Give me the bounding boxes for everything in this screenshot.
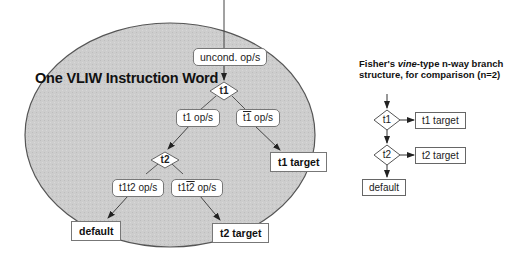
default-node: default [71, 221, 121, 241]
t1t2-ops-node: t1t2 op/s [112, 179, 164, 197]
comparison-title-line2: structure, for comparison (n=2) [359, 69, 503, 80]
t2-target-node: t2 target [212, 223, 269, 243]
comparison-title-line1: Fisher's vine-type n-way branch [359, 58, 503, 69]
comparison-title: Fisher's vine-type n-way branch structur… [359, 58, 503, 80]
t1-ops-node: t1 op/s [176, 109, 220, 127]
vine-t1-target-node: t1 target [415, 112, 466, 129]
title-prefix: Fisher's [359, 58, 398, 69]
title-suffix: -type n-way branch [417, 58, 504, 69]
vine-t2-target-node: t2 target [415, 147, 466, 164]
t1-not-t2-ops-node: t1t2 op/s [171, 179, 223, 197]
not-t1-ops-node: t1 op/s [236, 109, 280, 127]
vliw-region-label: One VLIW Instruction Word [35, 70, 218, 86]
not-t1-ops-suffix: op/s [251, 112, 273, 123]
vliw-region [25, 23, 315, 247]
uncond-ops-node: uncond. op/s [193, 48, 267, 66]
not-t2-overline: t2 [186, 182, 194, 193]
t2-decision-label: t2 [152, 154, 178, 165]
vine-t2-label: t2 [374, 149, 400, 160]
title-italic-vine: vine [398, 58, 417, 69]
vine-default-node: default [362, 179, 406, 196]
t1-target-node: t1 target [270, 152, 327, 172]
t1-not-t2-suffix: op/s [195, 182, 217, 193]
vine-t1-label: t1 [374, 114, 400, 125]
t1-decision-label: t1 [211, 85, 237, 96]
